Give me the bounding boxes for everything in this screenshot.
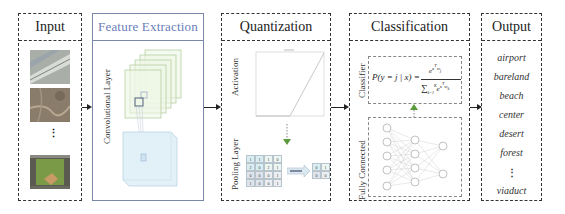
output-class-list: airport bareland beach center desert for… — [482, 48, 541, 200]
classifier-label: Classifier — [357, 64, 367, 99]
output-panel: Output airport bareland beach center des… — [481, 13, 542, 201]
fully-connected-network — [368, 117, 462, 197]
relu-activation-plot — [252, 48, 328, 122]
runway-aerial-image — [30, 50, 70, 84]
feature-extraction-title: Feature Extraction — [93, 14, 203, 41]
quantization-title: Quantization — [222, 14, 330, 41]
arrow-down-green — [282, 124, 292, 146]
output-class: beach — [482, 86, 541, 105]
softmax-formula: P(y = j | x) = exTwj ∑k=1KexTwk — [368, 56, 462, 104]
classification-title: Classification — [350, 14, 469, 41]
formula-lhs: P(y = j | x) = — [372, 72, 420, 82]
pooling-layer-label: Pooling Layer — [230, 139, 240, 190]
arrow-feature-to-quantization — [204, 107, 217, 108]
arrow-classification-to-output — [470, 107, 478, 108]
arrow-up-green — [409, 104, 419, 118]
formula-denominator: ∑k=1KexTwk — [421, 81, 449, 95]
input-title: Input — [19, 14, 81, 41]
activation-label: Activation — [230, 58, 240, 96]
output-title: Output — [482, 14, 541, 41]
classification-panel: Classification Classifier P(y = j | x) =… — [349, 13, 470, 201]
formula-fraction-line — [421, 79, 461, 80]
formula-numerator: exTwj — [429, 63, 441, 75]
output-class: center — [482, 105, 541, 124]
neural-network-illustration — [369, 118, 461, 196]
pooling-output-grid: 0 1 0 0 — [312, 163, 330, 179]
quantization-panel: Quantization Activation Pooling Layer 1 … — [221, 13, 331, 201]
feature-extraction-panel: Feature Extraction Convolutional Layer — [92, 13, 204, 201]
arrow-input-to-feature — [82, 107, 88, 108]
output-class: bareland — [482, 67, 541, 86]
output-class: viaduct — [482, 181, 541, 200]
output-class: airport — [482, 48, 541, 67]
bareland-aerial-image — [30, 88, 70, 122]
arrow-quantization-to-classification — [331, 107, 345, 108]
convolutional-layer-label: Convolutional Layer — [102, 69, 112, 144]
output-ellipsis: ⋮ — [482, 162, 541, 181]
output-class: forest — [482, 143, 541, 162]
output-class: desert — [482, 124, 541, 143]
fully-connected-label: Fully Connected — [357, 140, 367, 200]
pooling-input-grid: 1 1 1 0 2 0 2 1 0 0 0 1 1 0 0 1 — [246, 155, 282, 187]
input-ellipsis: ⋮ — [48, 131, 59, 135]
baseball-field-aerial-image — [30, 155, 70, 189]
input-panel: Input ⋮ — [18, 13, 82, 201]
max-pooling-arrow — [287, 165, 311, 177]
convolution-illustration — [115, 46, 195, 196]
